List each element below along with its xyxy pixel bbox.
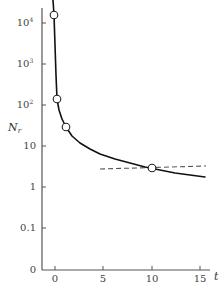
svg-text:0: 0 [30,264,36,275]
data-point [62,123,70,131]
x-tick-labels: 0 5 10 15 [52,273,207,284]
svg-text:5: 5 [100,273,106,284]
y-tick-labels: 104 103 102 10 1 0.1 0 [17,16,36,275]
data-point [53,95,61,103]
svg-text:1: 1 [30,181,36,192]
svg-text:103: 103 [17,57,34,69]
svg-text:102: 102 [17,98,34,110]
data-point [50,11,58,19]
svg-text:15: 15 [194,273,207,284]
svg-text:104: 104 [17,16,34,28]
fitted-curve [53,0,205,177]
data-point [148,164,156,172]
data-points [50,11,156,172]
decay-chart: 104 103 102 10 1 0.1 0 Nr 0 5 10 15 t [0,0,220,286]
svg-text:10: 10 [146,273,159,284]
svg-text:0.1: 0.1 [20,222,36,233]
svg-text:0: 0 [52,273,58,284]
svg-text:10: 10 [23,140,36,151]
y-axis-title: Nr [7,121,22,135]
x-axis-title: t [214,270,219,283]
